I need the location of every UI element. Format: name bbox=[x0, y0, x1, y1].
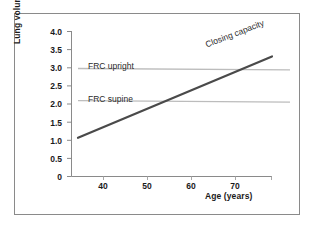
x-tick-marks bbox=[104, 177, 272, 181]
y-tick-label-1-5: 1.5 bbox=[34, 118, 62, 128]
x-tick-label-40: 40 bbox=[90, 181, 116, 191]
x-tick-label-70: 70 bbox=[222, 181, 248, 191]
y-tick-label-0-5: 0.5 bbox=[34, 154, 62, 164]
x-axis-label: Age (years) bbox=[205, 191, 252, 201]
y-tick-label-3-0: 3.0 bbox=[34, 63, 62, 73]
y-axis-label: Lung volume (l) bbox=[12, 0, 22, 44]
y-tick-label-3-5: 3.5 bbox=[34, 45, 62, 55]
y-tick-label-4-0: 4.0 bbox=[34, 27, 62, 37]
figure: Lung volume (l) Age (years) 4.0 3.5 3.0 … bbox=[0, 0, 315, 234]
y-tick-label-0: 0 bbox=[34, 172, 62, 182]
annotation-frc-upright: FRC upright bbox=[88, 61, 134, 71]
x-tick-label-50: 50 bbox=[134, 181, 160, 191]
x-tick-label-60: 60 bbox=[178, 181, 204, 191]
y-tick-label-2-0: 2.0 bbox=[34, 99, 62, 109]
y-tick-label-2-5: 2.5 bbox=[34, 81, 62, 91]
y-tick-marks bbox=[67, 32, 72, 177]
annotation-frc-supine: FRC supine bbox=[88, 94, 133, 104]
y-tick-label-1-0: 1.0 bbox=[34, 136, 62, 146]
